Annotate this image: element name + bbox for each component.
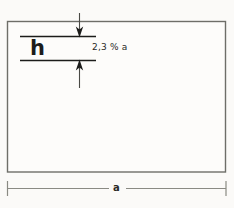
width-symbol-label: a bbox=[113, 183, 120, 193]
band-value-label: 2,3 % a bbox=[92, 43, 128, 52]
height-symbol-label: h bbox=[30, 38, 44, 59]
technical-diagram: h 2,3 % a a bbox=[0, 0, 234, 208]
diagram-canvas bbox=[0, 0, 234, 208]
